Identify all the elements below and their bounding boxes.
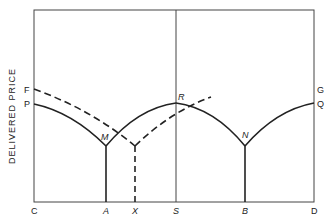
curve-p-m (34, 104, 106, 146)
plot-frame (34, 10, 314, 202)
label-x: X (131, 206, 139, 216)
label-p: P (24, 99, 30, 109)
label-r: R (178, 92, 185, 102)
label-q: Q (317, 99, 324, 109)
label-s: S (173, 206, 179, 216)
label-a: A (102, 206, 109, 216)
dashed-curve-f-x (34, 89, 135, 146)
curve-m-r (106, 103, 176, 146)
curve-n-q (245, 103, 314, 146)
dashed-curve-x-right (135, 97, 211, 146)
label-d: D (311, 206, 318, 216)
label-c: C (31, 206, 38, 216)
label-n: N (242, 130, 249, 140)
label-g: G (317, 85, 324, 95)
curve-r-n (176, 103, 245, 146)
y-axis-label: DELIVERED PRICE (7, 68, 17, 164)
label-f: F (24, 85, 30, 95)
delivered-price-diagram: DELIVERED PRICE F P G Q M R N C A X S B … (0, 0, 330, 220)
label-b: B (242, 206, 248, 216)
label-m: M (101, 132, 109, 142)
